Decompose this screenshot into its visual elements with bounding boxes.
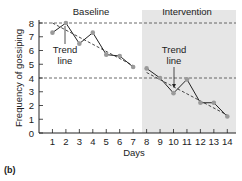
y-tick-label: 0 bbox=[29, 128, 34, 139]
y-axis-label: Frequency of gossiping bbox=[13, 29, 24, 127]
baseline-phase-label: Baseline bbox=[73, 6, 109, 17]
x-tick-label: 12 bbox=[195, 136, 206, 147]
data-point bbox=[50, 30, 55, 35]
x-tick-label: 4 bbox=[90, 136, 95, 147]
y-tick-label: 8 bbox=[29, 18, 34, 29]
x-tick-label: 13 bbox=[209, 136, 220, 147]
x-tick-label: 14 bbox=[222, 136, 233, 147]
data-point bbox=[158, 76, 163, 81]
x-axis-label: Days bbox=[123, 147, 145, 158]
data-point bbox=[64, 21, 69, 26]
trend-line-annotation-baseline-2: line bbox=[58, 55, 73, 66]
x-tick-label: 11 bbox=[182, 136, 192, 147]
x-tick-label: 3 bbox=[77, 136, 82, 147]
data-point bbox=[117, 54, 122, 59]
trend-line-annotation-intervention-2: line bbox=[167, 55, 182, 66]
x-tick-label: 1 bbox=[50, 136, 55, 147]
data-point bbox=[198, 100, 203, 105]
x-tick-label: 5 bbox=[104, 136, 109, 147]
panel-label: (b) bbox=[4, 165, 16, 175]
trend-line-annotation-intervention: Trend bbox=[162, 44, 186, 55]
x-tick-label: 8 bbox=[144, 136, 149, 147]
x-tick-label: 7 bbox=[131, 136, 136, 147]
data-point bbox=[144, 66, 149, 71]
y-tick-label: 6 bbox=[29, 45, 34, 56]
data-point bbox=[91, 30, 96, 35]
y-tick-label: 3 bbox=[29, 86, 34, 97]
data-point bbox=[131, 65, 136, 70]
y-tick-label: 1 bbox=[29, 114, 34, 125]
y-tick-label: 7 bbox=[29, 31, 34, 42]
data-point bbox=[104, 52, 109, 57]
x-tick-label: 2 bbox=[63, 136, 68, 147]
y-tick-label: 5 bbox=[29, 59, 34, 70]
trend-line-annotation-baseline: Trend bbox=[53, 44, 77, 55]
y-tick-label: 2 bbox=[29, 100, 34, 111]
data-point bbox=[77, 41, 82, 46]
data-point bbox=[212, 100, 217, 105]
x-tick-label: 10 bbox=[168, 136, 179, 147]
intervention-shaded-region bbox=[142, 10, 236, 133]
intervention-phase-label: Intervention bbox=[162, 6, 212, 17]
data-point bbox=[185, 77, 190, 82]
x-tick-label: 6 bbox=[117, 136, 122, 147]
single-subject-design-chart: 0123456781234567891011121314 Baseline In… bbox=[0, 0, 242, 181]
x-tick-label: 9 bbox=[157, 136, 162, 147]
data-point bbox=[171, 91, 176, 96]
data-point bbox=[225, 114, 230, 119]
y-tick-label: 4 bbox=[29, 73, 34, 84]
